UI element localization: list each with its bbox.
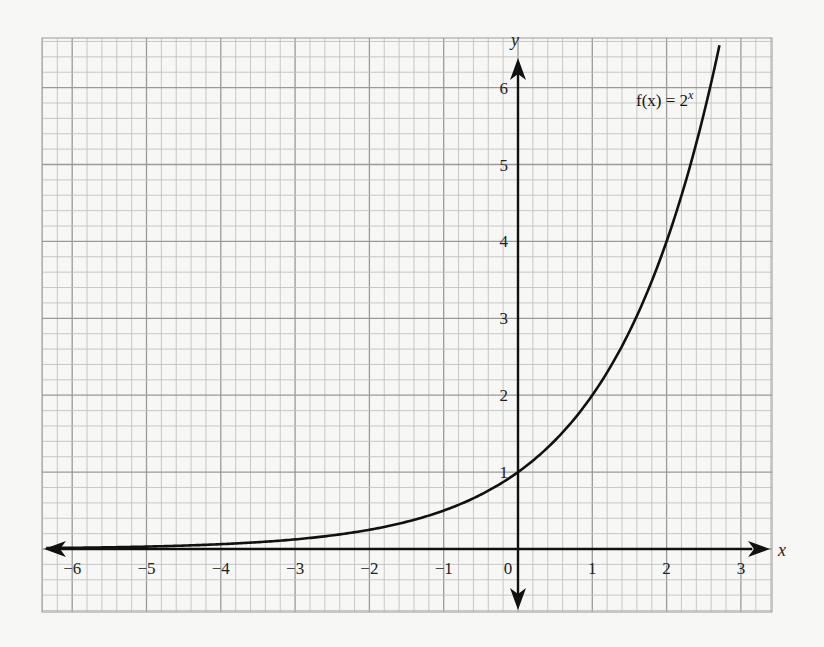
x-axis-label: x [777, 540, 786, 560]
x-tick-label: 3 [737, 559, 746, 578]
function-label-base: f(x) = 2 [636, 91, 688, 110]
x-tick-label: −6 [63, 559, 81, 578]
x-tick-label: −4 [212, 559, 231, 578]
y-tick-label: 6 [500, 79, 509, 98]
y-tick-label: 5 [500, 156, 509, 175]
grid-border [42, 38, 772, 612]
y-axis-label: y [509, 30, 519, 50]
y-tick-label: 2 [500, 386, 509, 405]
function-label: f(x) = 2x [636, 88, 694, 110]
x-tick-label: −2 [360, 559, 378, 578]
x-tick-label: 1 [588, 559, 597, 578]
x-tick-label: −3 [286, 559, 304, 578]
y-tick-label: 4 [500, 232, 509, 251]
exponential-chart: −6−5−4−3−2−10123123456 x y f(x) = 2x [0, 0, 824, 647]
function-label-exponent: x [687, 88, 694, 102]
y-tick-label: 3 [500, 309, 509, 328]
x-tick-label: −1 [435, 559, 453, 578]
x-tick-label: −5 [137, 559, 155, 578]
x-tick-label: 0 [504, 559, 513, 578]
grid [42, 38, 772, 612]
x-tick-label: 2 [662, 559, 671, 578]
